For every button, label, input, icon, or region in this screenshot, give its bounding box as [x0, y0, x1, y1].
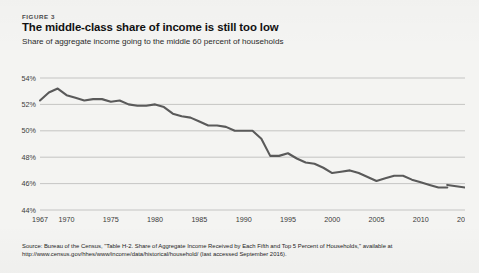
x-axis-tick-label: 1975 — [103, 215, 119, 224]
x-axis-tick-label: 2015 — [457, 215, 465, 224]
figure-container: FIGURE 3 The middle-class share of incom… — [0, 0, 479, 273]
y-axis-tick-label: 54% — [22, 74, 37, 83]
x-axis-tick-label: 1990 — [236, 215, 252, 224]
x-axis-tick-label: 2005 — [368, 215, 384, 224]
y-axis-tick-label: 52% — [22, 100, 37, 109]
x-axis-tick-label: 2000 — [324, 215, 340, 224]
y-axis-tick-label: 50% — [22, 126, 37, 135]
y-axis-tick-label: 46% — [22, 179, 37, 188]
figure-title: The middle-class share of income is stil… — [22, 21, 279, 33]
data-line-series-1 — [447, 185, 465, 188]
line-chart: 54%52%50%48%46%44%1967197019751980198519… — [14, 58, 465, 238]
x-axis-tick-label: 1995 — [280, 215, 296, 224]
figure-subtitle: Share of aggregate income going to the m… — [22, 37, 283, 46]
y-axis-tick-label: 44% — [22, 206, 37, 215]
source-note: Source: Bureau of the Census, "Table H-2… — [22, 242, 462, 259]
x-axis-tick-label: 1970 — [59, 215, 75, 224]
data-line-series-0 — [40, 89, 447, 188]
x-axis-tick-label: 1980 — [147, 215, 163, 224]
x-axis-tick-label: 2010 — [413, 215, 429, 224]
x-axis-tick-label: 1967 — [32, 215, 48, 224]
chart-plot-area: 54%52%50%48%46%44%1967197019751980198519… — [14, 58, 465, 238]
y-axis-tick-label: 48% — [22, 153, 37, 162]
figure-number-label: FIGURE 3 — [22, 13, 55, 20]
source-line-1: Source: Bureau of the Census, "Table H-2… — [22, 242, 462, 250]
source-line-2: http://www.census.gov/hhes/www/income/da… — [22, 250, 462, 258]
x-axis-tick-label: 1985 — [191, 215, 207, 224]
